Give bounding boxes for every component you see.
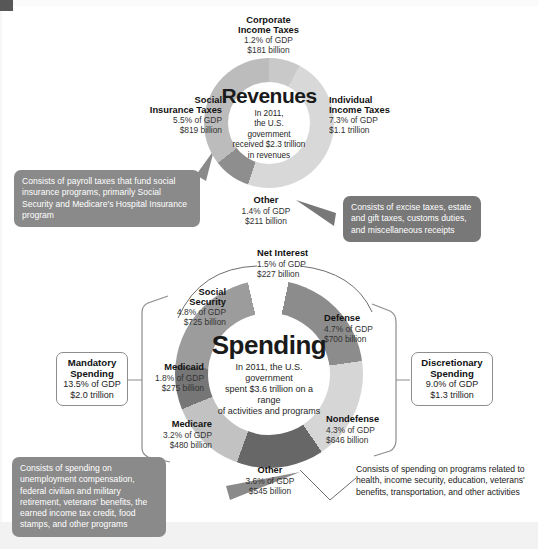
discretionary-name-2: Spending [417,368,487,379]
revenue-label-other: Other 1.4% of GDP $211 billion [210,196,322,226]
discretionary-pct: 9.0% of GDP [417,379,487,390]
spending-social-security-name-2: Security [140,298,226,308]
revenue-individual-name-2: Income Taxes [329,106,449,116]
infographic-canvas: Revenues In 2011, the U.S. government re… [0,0,538,549]
callout-other-revenue-text: Consists of excise taxes, estate and gif… [351,202,473,236]
callout-social-insurance-text: Consists of payroll taxes that fund soci… [22,176,192,221]
spending-donut-center: Spending In 2011, the U.S. government sp… [208,313,330,435]
spending-net-interest-name: Net Interest [257,249,367,259]
revenue-social-insurance-amt: $819 billion [110,125,222,135]
spending-medicaid-amt: $275 billion [128,383,204,393]
spending-medicaid-pct: 1.8% of GDP [128,373,204,383]
callout-mandatory-other-text: Consists of spending on unemployment com… [20,463,158,531]
revenues-title: Revenues [221,85,316,106]
spending-subtitle: In 2011, the U.S. government spent $3.6 … [208,362,330,417]
revenues-subtitle: In 2011, the U.S. government received $2… [228,109,310,161]
spending-subtitle-line2: spent $3.6 trillion on a range [225,384,313,405]
revenue-social-insurance-pct: 5.5% of GDP [110,115,222,125]
spending-other-name: Other [222,466,318,476]
discretionary-name-1: Discretionary [417,357,487,368]
revenue-corporate-name-2: Income Taxes [196,26,341,36]
mandatory-pct: 13.5% of GDP [62,379,122,390]
spending-other-pct: 3.6% of GDP [222,476,318,486]
spending-nondefense-amt: $646 billion [326,435,426,445]
callout-other-revenue: Consists of excise taxes, estate and gif… [343,196,481,242]
revenue-corporate-pct: 1.2% of GDP [196,35,341,45]
revenue-individual-amt: $1.1 trillion [329,125,449,135]
group-box-mandatory-spending: Mandatory Spending 13.5% of GDP $2.0 tri… [56,352,128,406]
spending-medicare-amt: $480 billion [122,440,212,450]
spending-label-defense: Defense 4.7% of GDP $700 billion [324,314,418,344]
callout-social-insurance: Consists of payroll taxes that fund soci… [14,170,200,227]
spending-net-interest-amt: $227 billion [257,269,367,279]
revenues-subtitle-line1: In 2011, [255,109,284,118]
revenues-donut-center: Revenues In 2011, the U.S. government re… [228,82,310,164]
revenue-corporate-amt: $181 billion [196,45,341,55]
spending-label-medicaid: Medicaid 1.8% of GDP $275 billion [128,363,204,393]
revenue-label-social-insurance: Social Insurance Taxes 5.5% of GDP $819 … [110,96,222,135]
spending-label-nondefense: Nondefense 4.3% of GDP $646 billion [326,415,426,445]
spending-subtitle-line1: In 2011, the U.S. government [236,362,303,383]
spending-social-security-pct: 4.8% of GDP [140,307,226,317]
spending-nondefense-name: Nondefense [326,415,426,425]
spending-title: Spending [212,332,326,358]
spending-defense-name: Defense [324,314,418,324]
group-box-discretionary-spending: Discretionary Spending 9.0% of GDP $1.3 … [411,352,493,406]
spending-label-other: Other 3.6% of GDP $545 billion [222,466,318,496]
revenue-individual-pct: 7.3% of GDP [329,115,449,125]
corner-registration-mark [0,0,13,11]
spending-net-interest-pct: 1.5% of GDP [257,259,367,269]
spending-medicaid-name: Medicaid [128,363,204,373]
mandatory-amt: $2.0 trillion [62,390,122,401]
revenue-other-pct: 1.4% of GDP [210,206,322,216]
revenue-social-insurance-name-2: Insurance Taxes [110,106,222,116]
spending-other-amt: $545 billion [222,486,318,496]
callout-nondefense-text: Consists of spending on programs related… [356,464,534,498]
revenue-other-name-1: Other [210,196,322,206]
mandatory-name-2: Spending [62,368,122,379]
spending-social-security-amt: $725 billion [140,317,226,327]
revenues-subtitle-line3: received $2.3 trillion [233,140,306,149]
callout-mandatory-other: Consists of spending on unemployment com… [12,457,166,537]
spending-defense-amt: $700 billion [324,334,418,344]
spending-label-net-interest: Net Interest 1.5% of GDP $227 billion [257,249,367,279]
callout-nondefense: Consists of spending on programs related… [356,464,534,498]
spending-nondefense-pct: 4.3% of GDP [326,425,426,435]
spending-label-medicare: Medicare 3.2% of GDP $480 billion [122,420,212,450]
spending-subtitle-line3: of activities and programs [218,406,321,416]
revenue-other-amt: $211 billion [210,216,322,226]
spending-medicare-pct: 3.2% of GDP [122,430,212,440]
spending-medicare-name: Medicare [122,420,212,430]
spending-defense-pct: 4.7% of GDP [324,324,418,334]
revenues-subtitle-line2: the U.S. government [247,119,290,138]
mandatory-name-1: Mandatory [62,357,122,368]
revenue-label-individual: Individual Income Taxes 7.3% of GDP $1.1… [329,96,449,135]
discretionary-amt: $1.3 trillion [417,390,487,401]
revenues-donut-chart: Revenues In 2011, the U.S. government re… [204,58,334,188]
revenues-subtitle-line4: in revenues [248,151,290,160]
spending-label-social-security: Social Security 4.8% of GDP $725 billion [140,288,226,327]
revenue-label-corporate: Corporate Income Taxes 1.2% of GDP $181 … [196,16,341,55]
